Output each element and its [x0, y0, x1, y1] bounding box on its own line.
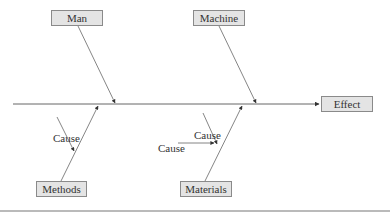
fishbone-diagram: Man Machine Effect Methods Materials Cau… [0, 0, 390, 214]
cause-label-methods: Cause [53, 133, 80, 144]
materials-bone [205, 106, 242, 181]
cause-label-materials-lower: Cause [158, 143, 185, 154]
category-box-methods: Methods [36, 181, 87, 197]
cause-label-materials-upper: Cause [194, 130, 221, 141]
category-box-materials: Materials [180, 181, 232, 197]
category-box-machine: Machine [193, 10, 245, 26]
man-bone [78, 26, 115, 103]
machine-bone [219, 26, 256, 103]
effect-box: Effect [321, 96, 373, 112]
category-box-man: Man [51, 10, 103, 26]
